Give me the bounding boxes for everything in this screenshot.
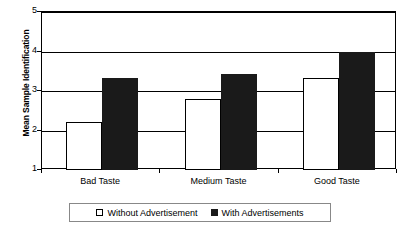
- x-category-label-bad-taste: Bad Taste: [41, 176, 159, 187]
- y-tick-label-5: 5: [11, 6, 37, 15]
- x-category-label-medium-taste: Medium Taste: [159, 176, 277, 187]
- y-tick-label-4: 4: [11, 46, 37, 55]
- x-axis-tick-3: [396, 169, 397, 173]
- y-tick-label-3: 3: [11, 85, 37, 94]
- bar-bad-taste-with-advertisements: [102, 78, 138, 170]
- bar-good-taste-without-advertisement: [303, 78, 339, 170]
- gridline-y-5: [42, 12, 395, 13]
- y-tick-label-2: 2: [11, 125, 37, 134]
- x-category-label-good-taste: Good Taste: [278, 176, 396, 187]
- y-axis-title: Mean Sample Identification: [21, 3, 31, 163]
- bar-chart-figure: Mean Sample Identification 12345 Bad Tas…: [0, 0, 403, 231]
- legend-label: Without Advertisement: [107, 208, 197, 218]
- legend-entry-without-advertisement: Without Advertisement: [96, 208, 197, 218]
- bar-medium-taste-with-advertisements: [221, 74, 257, 170]
- legend-label: With Advertisements: [222, 208, 304, 218]
- y-tick-label-1: 1: [11, 164, 37, 173]
- open-square-swatch: [96, 209, 103, 216]
- legend-entry-with-advertisements: With Advertisements: [211, 208, 304, 218]
- bar-bad-taste-without-advertisement: [66, 122, 102, 170]
- x-axis-tick-2: [278, 169, 279, 173]
- x-axis-tick-1: [159, 169, 160, 173]
- filled-square-swatch: [211, 209, 218, 216]
- bar-medium-taste-without-advertisement: [185, 99, 221, 170]
- bar-good-taste-with-advertisements: [339, 52, 375, 171]
- x-axis-tick-0: [41, 169, 42, 173]
- plot-area: [41, 11, 396, 169]
- chart-legend: Without AdvertisementWith Advertisements: [69, 203, 331, 222]
- plot-inner: [42, 12, 395, 168]
